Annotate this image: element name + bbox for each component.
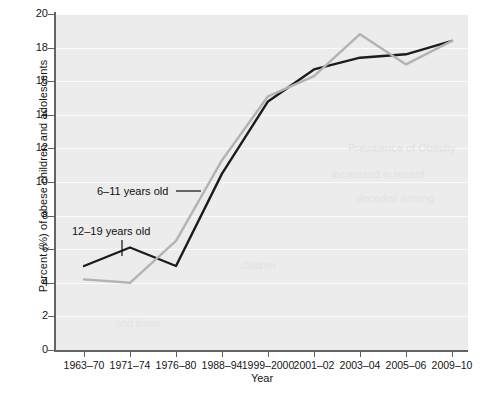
annotation-12-19-years-old: 12–19 years old [72, 225, 150, 237]
series-lines [0, 0, 494, 396]
obesity-trend-chart: Percent (%) of obese children and adoles… [0, 0, 494, 396]
annotation-6-11-years-old: 6–11 years old [97, 185, 168, 197]
x-axis-title: Year [56, 372, 468, 384]
series-line-6-11-years-old [84, 34, 452, 283]
